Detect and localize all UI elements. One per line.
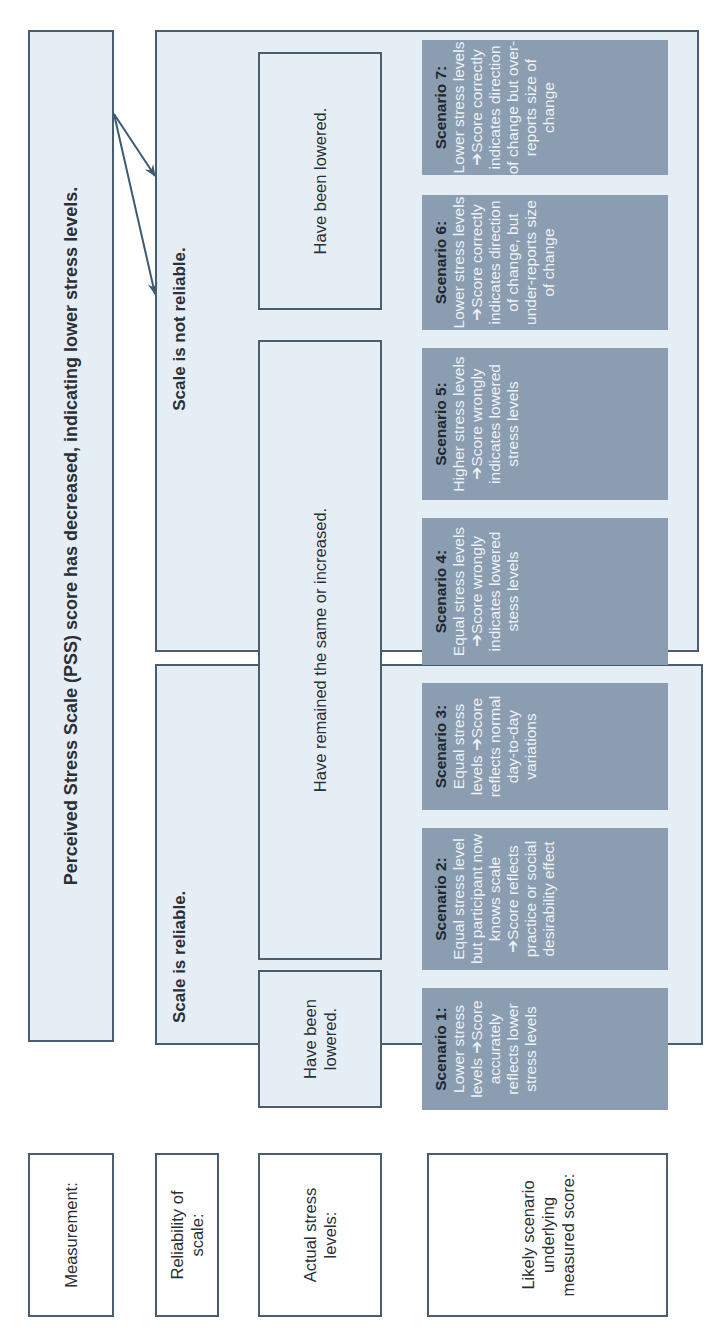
connector-arrows <box>0 0 712 1339</box>
pss-flow-diagram: Measurement: Reliability of scale: Actua… <box>0 0 712 1339</box>
arrow-measurement-to-not-reliable <box>114 114 155 294</box>
